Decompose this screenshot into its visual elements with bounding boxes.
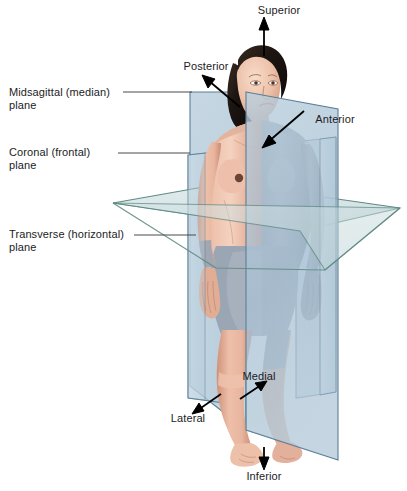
label-superior: Superior [236, 4, 322, 17]
pupil-right [271, 81, 275, 85]
pupil-left [254, 81, 258, 85]
coronal-plane-front-left [188, 153, 205, 400]
label-posterior: Posterior [171, 60, 241, 73]
label-inferior: Inferior [228, 470, 300, 483]
nipple-left [235, 174, 243, 182]
label-transverse-plane: Transverse (horizontal) plane [9, 228, 137, 254]
body-planes-figure: Midsagittal (median) plane Coronal (fron… [0, 0, 407, 491]
foot-left [230, 443, 263, 467]
label-coronal-plane: Coronal (frontal) plane [9, 146, 133, 172]
planes-in-front-of-body [113, 92, 400, 460]
label-anterior: Anterior [300, 113, 370, 126]
label-midsagittal-plane: Midsagittal (median) plane [9, 86, 133, 112]
label-lateral: Lateral [157, 412, 219, 425]
label-medial: Medial [225, 370, 293, 383]
